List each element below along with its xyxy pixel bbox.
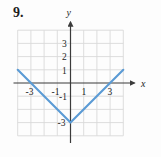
figure-page: 9. [0,0,161,157]
y-tick-label-neg3: -3 [58,118,66,128]
y-tick-label-pos2: 2 [62,52,67,62]
y-axis-label: y [66,7,72,18]
x-tick-label-pos3: 3 [108,87,113,97]
x-tick-label-neg3: -3 [26,87,34,97]
x-axis-label: x [140,78,146,89]
y-tick-label-neg1: -1 [59,92,67,102]
y-tick-label-pos1: 1 [62,66,67,76]
x-tick-label-pos1: 1 [82,87,87,97]
y-tick-label-pos3: 3 [62,39,67,49]
coordinate-plane-figure: x y -3 -1 1 3 3 2 1 -1 -3 [0,0,161,157]
